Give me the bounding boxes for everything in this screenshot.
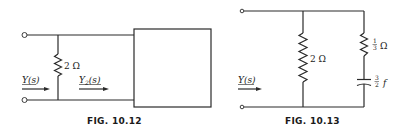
svg-text:1: 1: [373, 37, 377, 44]
input-admittance-label: Y(s): [238, 75, 256, 85]
circuit-diagrams: 2 Ω Y(s) Y2(s) FIG. 10.12 2 Ω: [0, 0, 402, 130]
figure-caption: FIG. 10.12: [87, 116, 142, 126]
resistor-one-third-ohm: [361, 33, 368, 56]
figure-caption: FIG. 10.13: [285, 116, 340, 126]
resistor-2-ohm: [55, 35, 62, 100]
resistor-label: 2 Ω: [64, 61, 80, 71]
shunt-resistor-label: 2 Ω: [310, 54, 326, 64]
input-terminal-bottom: [22, 98, 27, 103]
arrow-right-icon: [238, 87, 262, 91]
series-rc-branch: [357, 11, 371, 107]
svg-text:3: 3: [375, 74, 379, 81]
resistor-2-ohm: [299, 11, 307, 107]
load-network-box: [134, 29, 211, 107]
input-terminal-top: [22, 33, 27, 38]
arrow-right-icon: [22, 87, 50, 91]
svg-text:3: 3: [373, 44, 377, 51]
input-terminal-bottom: [240, 105, 244, 109]
input-terminal-top: [240, 9, 244, 13]
svg-text:2: 2: [375, 81, 379, 88]
series-resistor-label: 1 3 Ω: [373, 37, 388, 51]
input-admittance-label: Y(s): [22, 75, 40, 85]
svg-text:f: f: [382, 78, 388, 88]
figure-10-12: 2 Ω Y(s) Y2(s) FIG. 10.12: [22, 29, 211, 126]
arrow-right-icon: [79, 87, 109, 91]
figure-10-13: 2 Ω 1 3 Ω 3 2 f Y(: [238, 9, 388, 126]
capacitor-label: 3 2 f: [375, 74, 389, 88]
svg-text:Ω: Ω: [380, 41, 387, 51]
